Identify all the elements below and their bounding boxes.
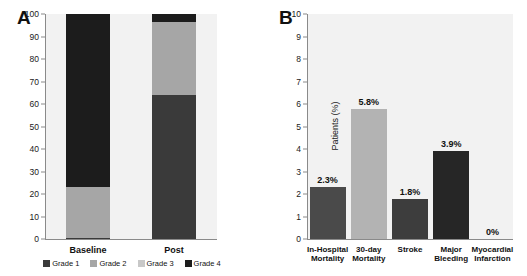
y-tick (41, 36, 45, 37)
y-tick (41, 14, 45, 15)
bar-column: 1.8% (392, 199, 428, 240)
y-tick (303, 81, 307, 82)
y-tick-label: 90 (30, 32, 39, 42)
bar-value-label: 3.9% (441, 139, 462, 149)
legend-swatch-icon (138, 260, 145, 267)
panel-b-y-axis (307, 14, 308, 240)
bar-column: 2.3% (310, 187, 346, 239)
bar-segment (66, 187, 110, 238)
bar-value-label: 0% (486, 227, 499, 237)
legend-swatch-icon (43, 260, 50, 267)
bar (310, 187, 346, 239)
bar-segment (66, 238, 110, 239)
y-tick-label: 7 (296, 77, 301, 87)
bar-segment (152, 14, 196, 22)
bar-column: 5.8% (351, 109, 387, 240)
bar-value-label: 1.8% (400, 187, 421, 197)
panel-a-legend: Grade 1Grade 2Grade 3Grade 4 (0, 259, 264, 268)
legend-label: Grade 4 (194, 259, 221, 268)
y-tick (41, 149, 45, 150)
y-tick-label: 100 (25, 9, 39, 19)
y-tick (303, 171, 307, 172)
y-tick-label: 60 (30, 99, 39, 109)
legend-label: Grade 3 (147, 259, 174, 268)
y-tick-label: 4 (296, 144, 301, 154)
bar (392, 199, 428, 240)
y-tick (41, 216, 45, 217)
y-tick-label: 0 (296, 234, 301, 244)
panel-b: B Patients (%) 012345678910 2.3%In-Hospi… (264, 0, 527, 276)
panel-b-plot-area: Patients (%) 012345678910 2.3%In-Hospita… (307, 14, 513, 240)
y-tick-label: 20 (30, 189, 39, 199)
x-category-label: MyocardialInfarction (463, 245, 521, 263)
y-tick-label: 5 (296, 122, 301, 132)
bar-segment (152, 22, 196, 95)
y-tick (303, 14, 307, 15)
y-tick-label: 10 (292, 9, 301, 19)
panel-b-x-axis (307, 239, 513, 240)
y-tick-label: 40 (30, 144, 39, 154)
stacked-bar (152, 14, 196, 239)
y-tick (41, 194, 45, 195)
figure: A Patients (%) 0102030405060708090100 Ba… (0, 0, 527, 276)
y-tick-label: 50 (30, 122, 39, 132)
legend-item[interactable]: Grade 1 (43, 259, 79, 268)
bar-segment (152, 95, 196, 239)
y-tick (303, 36, 307, 37)
legend-item[interactable]: Grade 4 (185, 259, 221, 268)
y-tick (303, 149, 307, 150)
y-tick (41, 126, 45, 127)
bar-value-label: 5.8% (359, 97, 380, 107)
stacked-bar (66, 14, 110, 239)
y-tick-label: 30 (30, 167, 39, 177)
y-tick-label: 6 (296, 99, 301, 109)
panel-b-y-axis-label: Patients (%) (330, 81, 340, 171)
y-tick-label: 70 (30, 77, 39, 87)
legend-swatch-icon (90, 260, 97, 267)
y-tick (41, 81, 45, 82)
y-tick (303, 194, 307, 195)
y-tick-label: 8 (296, 54, 301, 64)
x-category-label: Post (164, 245, 184, 255)
y-tick-label: 1 (296, 212, 301, 222)
legend-item[interactable]: Grade 2 (90, 259, 126, 268)
y-tick (41, 59, 45, 60)
y-tick-label: 10 (30, 212, 39, 222)
y-tick (303, 239, 307, 240)
bar-column: 3.9% (433, 151, 469, 239)
bar (351, 109, 387, 240)
y-tick-label: 0 (34, 234, 39, 244)
legend-swatch-icon (185, 260, 192, 267)
panel-a: A Patients (%) 0102030405060708090100 Ba… (0, 0, 264, 276)
y-tick-label: 80 (30, 54, 39, 64)
y-tick (303, 126, 307, 127)
legend-label: Grade 1 (52, 259, 79, 268)
legend-label: Grade 2 (99, 259, 126, 268)
y-tick (41, 239, 45, 240)
y-tick (303, 104, 307, 105)
bar-segment (66, 14, 110, 187)
y-tick-label: 3 (296, 167, 301, 177)
x-category-label: Baseline (69, 245, 106, 255)
bar (433, 151, 469, 239)
bar-value-label: 2.3% (317, 175, 338, 185)
panel-a-x-axis (45, 239, 217, 240)
panel-a-y-axis (45, 14, 46, 240)
panel-a-plot-area: Patients (%) 0102030405060708090100 Base… (45, 14, 217, 240)
y-tick (303, 59, 307, 60)
y-tick (41, 104, 45, 105)
y-tick-label: 2 (296, 189, 301, 199)
y-tick (303, 216, 307, 217)
legend-item[interactable]: Grade 3 (138, 259, 174, 268)
y-tick-label: 9 (296, 32, 301, 42)
y-tick (41, 171, 45, 172)
